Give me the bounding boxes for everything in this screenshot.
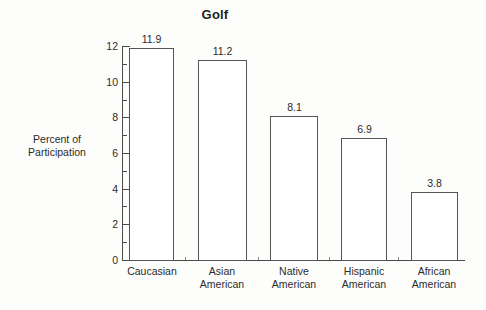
y-tick-label-6: 6	[100, 147, 118, 159]
y-minor-tick-11	[123, 64, 127, 65]
bar-value-caucasian: 11.9	[125, 33, 178, 45]
bar-native-american	[270, 116, 318, 261]
y-minor-tick-5	[123, 171, 127, 172]
chart-figure: Golf Percent of Participation 0 2 4 6 8 …	[0, 0, 486, 310]
y-minor-tick-1	[123, 242, 127, 243]
x-category-label-african-american: African American	[393, 265, 475, 291]
x-tick-minor-3	[398, 257, 399, 260]
bar-asian-american	[198, 60, 247, 261]
x-category-label-asian-american: Asian American	[181, 265, 263, 291]
bar-value-asian-american: 11.2	[196, 45, 249, 57]
bar-value-hispanic-american: 6.9	[338, 123, 391, 135]
x-tick-minor-2	[329, 257, 330, 260]
y-minor-tick-3	[123, 206, 127, 207]
y-tick-label-4: 4	[100, 183, 118, 195]
y-tick-12	[123, 46, 130, 47]
x-tick-minor-1	[258, 257, 259, 260]
x-category-label-african-american-line-2: American	[393, 278, 475, 291]
bar-african-american	[411, 192, 458, 261]
bar-value-african-american: 3.8	[408, 177, 461, 189]
x-category-label-african-american-line-1: African	[393, 265, 475, 278]
y-minor-tick-7	[123, 135, 127, 136]
y-tick-label-8: 8	[100, 111, 118, 123]
y-tick-label-12: 12	[100, 40, 118, 52]
bar-value-native-american: 8.1	[268, 101, 321, 113]
x-tick-minor-0	[185, 257, 186, 260]
plot-area: 0 2 4 6 8 10 12	[0, 0, 486, 310]
x-category-label-asian-american-line-1: Asian	[181, 265, 263, 278]
y-tick-label-10: 10	[100, 76, 118, 88]
y-minor-tick-9	[123, 100, 127, 101]
bar-caucasian	[129, 48, 174, 261]
x-category-label-asian-american-line-2: American	[181, 278, 263, 291]
bar-hispanic-american	[341, 138, 387, 261]
y-tick-label-2: 2	[100, 218, 118, 230]
